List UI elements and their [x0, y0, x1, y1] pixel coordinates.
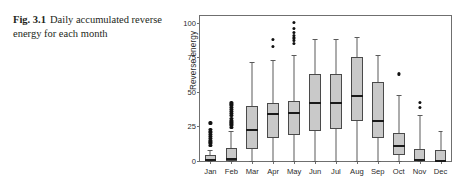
- outlier-point: [293, 42, 296, 45]
- median-line: [414, 159, 426, 161]
- whisker-cap-lower: [292, 161, 297, 162]
- whisker-cap-upper: [333, 39, 338, 40]
- box-iqr: [267, 103, 279, 138]
- x-axis-tick-label-may: May: [287, 167, 301, 176]
- boxplot-oct: [393, 16, 405, 161]
- boxplot-figure: Reverse energy 0255075100JanFebMarAprMay…: [168, 0, 468, 193]
- whisker-lower: [335, 129, 336, 161]
- whisker-upper: [294, 55, 295, 101]
- whisker-cap-upper: [271, 60, 276, 61]
- outlier-point: [230, 126, 233, 129]
- outlier-point: [209, 144, 212, 147]
- box-iqr: [372, 82, 384, 138]
- whisker-cap-upper: [354, 37, 359, 38]
- box-iqr: [288, 101, 300, 135]
- x-axis-tick-label-nov: Nov: [413, 167, 427, 176]
- median-line: [288, 112, 300, 114]
- whisker-lower: [377, 138, 378, 161]
- x-axis-tick-label-jan: Jan: [204, 167, 216, 176]
- median-line: [330, 102, 342, 104]
- y-axis-tick-label: 100: [183, 18, 196, 27]
- whisker-cap-upper: [292, 55, 297, 56]
- median-line: [351, 95, 363, 97]
- outlier-point: [418, 101, 421, 104]
- x-axis-tick-label-jul: Jul: [331, 167, 341, 176]
- whisker-cap-lower: [313, 161, 318, 162]
- boxplot-nov: [414, 16, 426, 161]
- boxplot-jul: [330, 16, 342, 161]
- y-axis-tick-mark: [197, 57, 200, 58]
- box-iqr: [246, 106, 258, 150]
- median-line: [246, 129, 258, 131]
- median-line: [205, 159, 217, 161]
- outlier-point: [272, 38, 275, 41]
- outlier-point: [293, 21, 296, 24]
- whisker-upper: [335, 39, 336, 74]
- boxplot-apr: [267, 16, 279, 161]
- y-axis-tick-label: 75: [183, 53, 196, 62]
- y-axis-tick-label: 0: [183, 157, 196, 166]
- outlier-point: [209, 121, 212, 124]
- whisker-upper: [377, 55, 378, 83]
- boxplot-sep: [372, 16, 384, 161]
- median-line: [435, 160, 447, 162]
- whisker-cap-lower: [271, 161, 276, 162]
- outlier-point: [293, 27, 296, 30]
- whisker-upper: [315, 39, 316, 74]
- whisker-cap-upper: [438, 131, 443, 132]
- whisker-cap-lower: [208, 161, 213, 162]
- boxplot-dec: [435, 16, 447, 161]
- boxplot-aug: [351, 16, 363, 161]
- plot-area: 0255075100JanFebMarAprMayJunJulAugSepOct…: [199, 15, 452, 162]
- whisker-upper: [419, 115, 420, 148]
- whisker-lower: [356, 121, 357, 161]
- whisker-lower: [315, 131, 316, 161]
- whisker-cap-lower: [333, 161, 338, 162]
- whisker-cap-lower: [354, 161, 359, 162]
- whisker-upper: [231, 131, 232, 148]
- y-axis-tick-label: 25: [183, 122, 196, 131]
- whisker-cap-lower: [229, 161, 234, 162]
- x-axis-tick-label-dec: Dec: [434, 167, 448, 176]
- outlier-point: [418, 106, 421, 109]
- y-axis-tick-label: 50: [183, 87, 196, 96]
- whisker-lower: [294, 135, 295, 161]
- x-axis-tick-label-oct: Oct: [393, 167, 405, 176]
- whisker-lower: [252, 149, 253, 161]
- whisker-cap-upper: [250, 62, 255, 63]
- whisker-cap-upper: [417, 115, 422, 116]
- outlier-point: [272, 45, 275, 48]
- figure-caption: Fig. 3.1Daily accumulated reverse energy…: [13, 13, 173, 40]
- boxplot-mar: [246, 16, 258, 161]
- y-axis-tick-mark: [197, 126, 200, 127]
- boxplot-jun: [309, 16, 321, 161]
- whisker-cap-lower: [417, 161, 422, 162]
- outlier-point: [397, 72, 400, 75]
- whisker-upper: [252, 62, 253, 106]
- whisker-cap-upper: [396, 95, 401, 96]
- boxplot-may: [288, 16, 300, 161]
- y-axis-tick-mark: [197, 23, 200, 24]
- median-line: [226, 158, 238, 160]
- whisker-cap-lower: [396, 161, 401, 162]
- whisker-cap-upper: [208, 150, 213, 151]
- median-line: [267, 113, 279, 115]
- boxplot-jan: [205, 16, 217, 161]
- whisker-upper: [273, 60, 274, 103]
- figure-number: Fig. 3.1: [13, 14, 46, 25]
- x-axis-tick-label-feb: Feb: [225, 167, 238, 176]
- x-axis-tick-label-apr: Apr: [267, 167, 279, 176]
- whisker-lower: [273, 138, 274, 161]
- median-line: [372, 120, 384, 122]
- boxplot-feb: [226, 16, 238, 161]
- y-axis-tick-mark: [197, 161, 200, 162]
- y-axis-tick-mark: [197, 92, 200, 93]
- box-iqr: [351, 57, 363, 121]
- whisker-upper: [398, 95, 399, 134]
- whisker-upper: [440, 131, 441, 150]
- x-axis-tick-label-aug: Aug: [350, 167, 364, 176]
- whisker-cap-upper: [313, 39, 318, 40]
- x-axis-tick-label-sep: Sep: [371, 167, 385, 176]
- median-line: [309, 102, 321, 104]
- whisker-upper: [356, 37, 357, 58]
